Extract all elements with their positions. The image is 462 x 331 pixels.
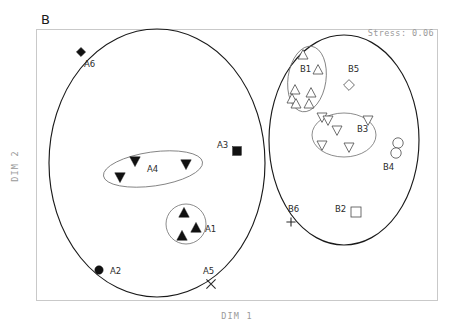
group-label-a6: A6 [84, 59, 95, 69]
group-label-b5: B5 [348, 64, 359, 74]
group-label-b1: B1 [300, 64, 311, 74]
group-label-a2: A2 [110, 266, 121, 276]
group-label-b2: B2 [335, 204, 346, 214]
panel-label: B [41, 12, 50, 27]
datapoint-b4-1 [391, 148, 401, 158]
group-label-a1: A1 [205, 224, 216, 234]
nmds-ordination-figure: B Stress: 0.06 DIM 1 DIM 2 A1A2A3A4A5A6B… [0, 0, 462, 331]
stress-annotation: Stress: 0.06 [368, 28, 434, 38]
group-label-b4: B4 [383, 162, 394, 172]
datapoint-a2-0 [95, 266, 103, 274]
group-label-a4: A4 [147, 164, 158, 174]
group-label-a3: A3 [217, 140, 228, 150]
y-axis-title: DIM 2 [10, 150, 20, 182]
datapoint-b4-0 [393, 138, 403, 148]
datapoint-b2-0 [351, 207, 361, 217]
x-axis-title: DIM 1 [221, 311, 253, 321]
datapoint-a3-0 [233, 147, 242, 156]
group-label-b3: B3 [357, 124, 368, 134]
group-label-a5: A5 [203, 266, 214, 276]
plot-canvas: B Stress: 0.06 DIM 1 DIM 2 A1A2A3A4A5A6B… [0, 0, 462, 331]
group-label-b6: B6 [288, 204, 299, 214]
